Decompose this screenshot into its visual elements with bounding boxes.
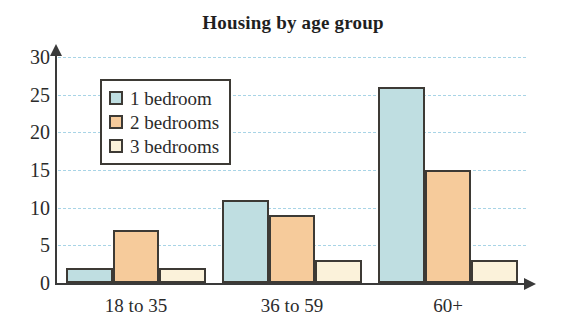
x-axis-arrow-icon <box>524 278 536 290</box>
x-label-group-3: 60+ <box>370 294 526 318</box>
x-label-group-1: 18 to 35 <box>58 294 214 318</box>
bar-3-bedrooms-18-to-35 <box>159 268 206 283</box>
y-tick-label: 15 <box>6 160 50 180</box>
y-tick-label: 25 <box>6 85 50 105</box>
y-axis-line <box>55 52 57 285</box>
bar-3-bedrooms-36-to-59 <box>315 260 362 283</box>
y-tick-label: 20 <box>6 122 50 142</box>
y-tick-label: 10 <box>6 198 50 218</box>
bar-1-bedroom-36-to-59 <box>222 200 269 283</box>
legend-label-1-bedroom: 1 bedroom <box>130 89 212 108</box>
legend-item-1-bedroom: 1 bedroom <box>109 86 219 110</box>
gridline <box>58 57 526 58</box>
y-tick-label: 30 <box>6 47 50 67</box>
legend-item-2-bedrooms: 2 bedrooms <box>109 110 219 134</box>
x-axis-line <box>55 283 525 285</box>
bar-2-bedrooms-36-to-59 <box>269 215 316 283</box>
legend-label-3-bedrooms: 3 bedrooms <box>130 137 219 156</box>
x-axis-category-labels: 18 to 35 36 to 59 60+ <box>58 294 526 326</box>
bar-1-bedroom-18-to-35 <box>66 268 113 283</box>
y-tick-label: 5 <box>6 235 50 255</box>
legend-swatch-icon-3-bedrooms <box>109 139 123 153</box>
bar-2-bedrooms-60-plus <box>425 170 472 283</box>
x-label-group-2: 36 to 59 <box>214 294 370 318</box>
y-tick-label: 0 <box>6 273 50 293</box>
y-axis-tick-labels: 30 25 20 15 10 5 0 <box>0 0 50 333</box>
y-axis-arrow-icon <box>50 44 62 56</box>
bar-1-bedroom-60-plus <box>378 87 425 283</box>
legend-item-3-bedrooms: 3 bedrooms <box>109 134 219 158</box>
bar-3-bedrooms-60-plus <box>471 260 518 283</box>
bar-2-bedrooms-18-to-35 <box>113 230 160 283</box>
chart-title: Housing by age group <box>0 12 586 34</box>
legend-swatch-icon-2-bedrooms <box>109 115 123 129</box>
bar-chart: Housing by age group 30 25 20 15 10 5 0 <box>0 0 586 333</box>
chart-legend: 1 bedroom 2 bedrooms 3 bedrooms <box>100 79 231 165</box>
legend-label-2-bedrooms: 2 bedrooms <box>130 113 219 132</box>
legend-swatch-icon-1-bedroom <box>109 91 123 105</box>
